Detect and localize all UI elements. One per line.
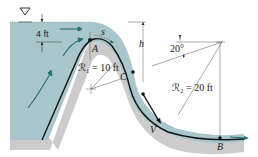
point-c-marker: [131, 70, 135, 74]
outlet-flow-arrow-icon: [244, 136, 249, 140]
radius-2-label: ℛ₂ = 20 ft: [172, 82, 213, 93]
arc-s-label: s: [101, 26, 105, 37]
height-label: h: [139, 38, 144, 49]
radius-1-label: ℛ₁ = 10 ft: [78, 62, 119, 73]
point-b-marker: [218, 136, 222, 140]
free-surface-icon: [18, 8, 32, 22]
point-b-label: B: [217, 141, 223, 152]
point-a-label: A: [91, 43, 99, 54]
spillway-diagram: 4 ft A s h ℛ₁ = 10 ft C V: [0, 0, 258, 157]
point-c-label: C: [120, 71, 127, 82]
angle-label: 20°: [170, 43, 184, 54]
depth-label: 4 ft: [36, 29, 49, 39]
